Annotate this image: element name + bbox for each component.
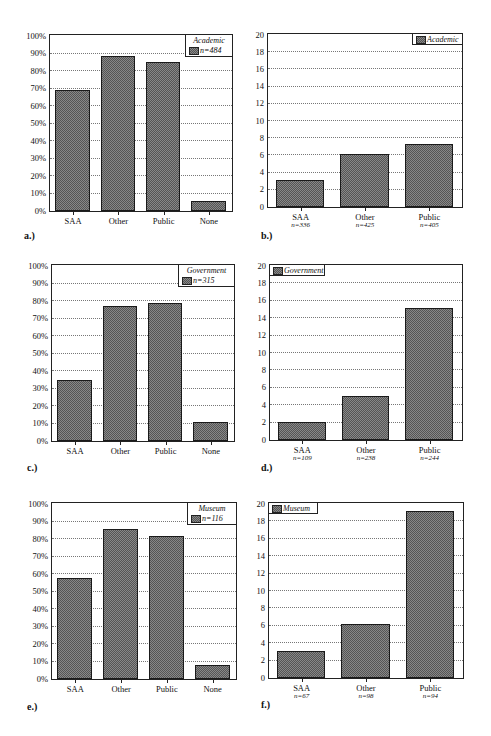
gridline (50, 88, 232, 89)
plot-area (49, 34, 233, 212)
legend-entry: n=315 (182, 276, 231, 286)
bar-saa (57, 578, 92, 680)
y-tick-label: 18 (234, 47, 264, 57)
legend-box: Museum (268, 502, 318, 514)
gridline (268, 103, 462, 104)
panel-label: d.) (261, 462, 272, 473)
x-tick (430, 679, 431, 682)
x-tick (164, 212, 165, 215)
bar-saa (276, 180, 324, 207)
y-tick-label: 10 (234, 116, 264, 126)
y-tick-label: 20 (235, 499, 265, 509)
legend-series-label: n=315 (193, 276, 214, 285)
x-category-n: n=98 (336, 692, 396, 701)
y-tick-label: 10% (18, 418, 48, 428)
panel-label: e.) (27, 701, 37, 712)
bar-public (148, 303, 182, 441)
gridline (52, 300, 234, 301)
bar-none (195, 665, 230, 679)
y-tick-label: 20 (236, 261, 266, 271)
x-category-label: None (181, 446, 241, 456)
legend-swatch-icon (182, 277, 192, 285)
legend-box: Governmentn=315 (178, 264, 235, 287)
y-tick-label: 6 (236, 382, 266, 392)
x-tick (209, 212, 210, 215)
y-tick-label: 18 (235, 516, 265, 526)
y-tick-label: 90% (18, 516, 48, 526)
gridline (52, 370, 234, 371)
gridline (268, 137, 462, 138)
bar-none (193, 422, 227, 441)
y-tick-label: 100% (18, 499, 48, 509)
panel-label: c.) (27, 462, 37, 473)
x-tick (120, 442, 121, 445)
bar-other (342, 396, 390, 440)
y-tick-label: 6 (235, 620, 265, 630)
x-category-label: None (183, 684, 243, 694)
legend-swatch-icon (416, 36, 426, 44)
legend-title: Academic (189, 36, 229, 46)
gridline (52, 573, 236, 574)
y-tick-label: 90% (16, 48, 46, 58)
legend-box: Museumn=116 (187, 502, 237, 525)
panel-label: f.) (261, 699, 270, 710)
x-category-n: n=94 (400, 692, 460, 701)
y-tick-label: 20% (18, 639, 48, 649)
plot-area (269, 264, 463, 441)
y-tick-label: 6 (234, 150, 264, 160)
panel-label: a.) (24, 230, 35, 241)
y-tick-label: 40% (16, 136, 46, 146)
y-tick-label: 12 (234, 98, 264, 108)
y-tick-label: 60% (16, 101, 46, 111)
legend-swatch-icon (191, 515, 201, 523)
bar-saa (277, 651, 325, 678)
y-tick-label: 40% (18, 366, 48, 376)
y-tick-label: 80% (18, 296, 48, 306)
y-tick-label: 14 (236, 313, 266, 323)
bar-other (101, 56, 135, 211)
y-tick-label: 20% (18, 401, 48, 411)
y-tick-label: 8 (234, 133, 264, 143)
y-tick-label: 14 (235, 551, 265, 561)
y-tick-label: 30% (18, 621, 48, 631)
y-tick-label: 10% (18, 656, 48, 666)
gridline (52, 335, 234, 336)
y-tick-label: 20% (16, 171, 46, 181)
y-tick-label: 8 (236, 365, 266, 375)
gridline (268, 68, 462, 69)
bar-saa (278, 422, 326, 440)
bar-other (340, 154, 388, 207)
x-tick (366, 679, 367, 682)
y-tick-label: 16 (234, 64, 264, 74)
legend-box: Government (269, 264, 325, 276)
y-tick-label: 80% (16, 66, 46, 76)
gridline (270, 300, 462, 301)
x-tick (75, 680, 76, 683)
y-tick-label: 80% (18, 534, 48, 544)
bar-public (149, 536, 184, 680)
x-category-n: n=425 (335, 221, 395, 230)
y-tick-label: 0 (235, 673, 265, 683)
y-tick-label: 100% (18, 261, 48, 271)
y-tick-label: 16 (235, 533, 265, 543)
x-tick (121, 680, 122, 683)
gridline (268, 120, 462, 121)
plot-area (268, 502, 464, 679)
x-tick (118, 212, 119, 215)
y-tick-label: 2 (235, 655, 265, 665)
x-tick (73, 212, 74, 215)
y-tick-label: 60% (18, 569, 48, 579)
legend-series-label: n=484 (200, 46, 221, 55)
y-tick-label: 100% (16, 31, 46, 41)
legend-swatch-icon (272, 505, 282, 513)
legend-box: Academicn=484 (185, 34, 233, 57)
legend-entry: Museum (272, 504, 314, 514)
bar-none (191, 201, 225, 212)
x-tick (302, 679, 303, 682)
y-tick-label: 40% (18, 604, 48, 614)
y-tick-label: 20 (234, 30, 264, 40)
bar-other (341, 624, 389, 678)
y-tick-label: 4 (235, 638, 265, 648)
x-category-n: n=238 (336, 454, 396, 463)
y-tick-label: 0% (18, 436, 48, 446)
